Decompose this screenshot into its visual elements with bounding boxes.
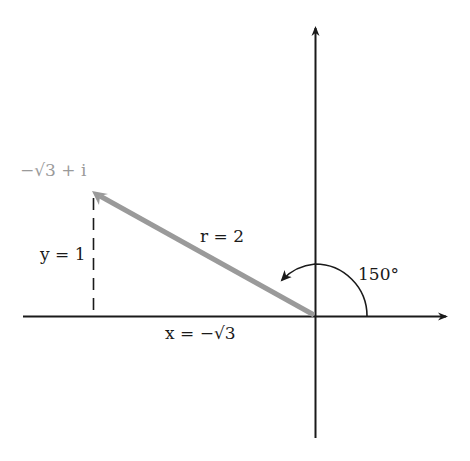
point-label: −√3 + i bbox=[20, 160, 86, 180]
x-label: x = −√3 bbox=[165, 323, 236, 343]
angle-arc bbox=[282, 264, 367, 316]
y-label: y = 1 bbox=[40, 244, 85, 264]
vector-r bbox=[100, 196, 314, 315]
angle-label: 150° bbox=[358, 264, 399, 284]
r-label: r = 2 bbox=[200, 226, 244, 246]
